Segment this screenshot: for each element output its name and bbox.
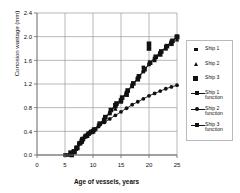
chart-legend: Ship 1 Ship 2 Ship 3 Ship 1 function Shi… — [186, 40, 233, 141]
diamond-marker-icon — [190, 44, 205, 55]
line-diamond-icon — [190, 88, 205, 99]
legend-item-ship-1[interactable]: Ship 1 — [190, 44, 232, 57]
legend-label: Ship 3 — [205, 73, 219, 81]
y-axis-title: Corrosion wastage (mm) — [13, 0, 20, 96]
corrosion-wastage-chart: 0.00.40.81.21.62.02.40510152025 — [0, 0, 186, 193]
svg-text:10: 10 — [90, 162, 97, 168]
svg-text:0.0: 0.0 — [24, 152, 33, 158]
legend-label: Ship 1 function — [205, 88, 232, 101]
legend-label: Ship 3 function — [205, 120, 232, 133]
plot-area-wrapper: 0.00.40.81.21.62.02.40510152025 Corrosio… — [0, 0, 186, 193]
legend-label: Ship 2 — [205, 59, 219, 67]
legend-item-ship-2[interactable]: Ship 2 — [190, 59, 232, 72]
gridlines — [37, 13, 177, 155]
line-cross-icon — [190, 104, 205, 115]
svg-text:2.0: 2.0 — [24, 34, 33, 40]
svg-text:15: 15 — [118, 162, 125, 168]
axis-frame — [34, 13, 177, 158]
svg-text:1.6: 1.6 — [24, 58, 33, 64]
svg-text:2.4: 2.4 — [24, 10, 33, 16]
svg-text:0.8: 0.8 — [24, 105, 33, 111]
legend-item-ship-1-function[interactable]: Ship 1 function — [190, 88, 232, 103]
square-marker-icon — [190, 73, 205, 84]
svg-text:0: 0 — [35, 162, 39, 168]
svg-text:5: 5 — [63, 162, 67, 168]
axis-tick-labels: 0.00.40.81.21.62.02.40510152025 — [24, 10, 181, 168]
x-axis-title: Age of vessels, years — [34, 178, 179, 185]
svg-text:25: 25 — [174, 162, 181, 168]
legend-item-ship-3[interactable]: Ship 3 — [190, 73, 232, 86]
legend-item-ship-3-function[interactable]: Ship 3 function — [190, 120, 232, 135]
triangle-marker-icon — [190, 59, 205, 70]
series-ship-2-function — [69, 83, 179, 157]
svg-text:20: 20 — [146, 162, 153, 168]
legend-item-ship-2-function[interactable]: Ship 2 function — [190, 104, 232, 119]
svg-text:1.2: 1.2 — [24, 81, 33, 87]
svg-text:0.4: 0.4 — [24, 129, 33, 135]
chart-figure: 0.00.40.81.21.62.02.40510152025 Corrosio… — [0, 0, 240, 193]
legend-label: Ship 2 function — [205, 104, 232, 117]
legend-label: Ship 1 — [205, 44, 219, 52]
line-square-icon — [190, 120, 205, 131]
